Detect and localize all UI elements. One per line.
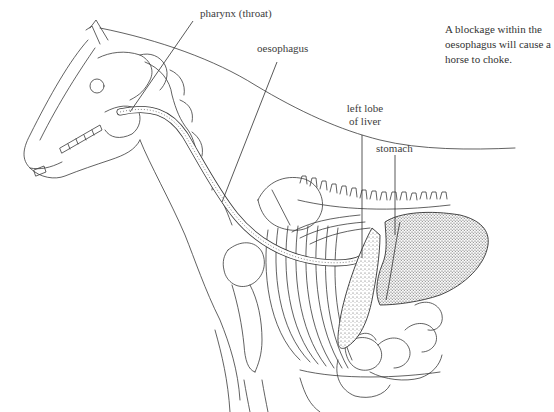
oesophagus-label: oesophagus xyxy=(257,42,308,55)
liver-label-line2: of liver xyxy=(345,115,385,128)
caption-line-1: A blockage within the xyxy=(445,22,554,37)
liver-label: left lobe of liver xyxy=(345,102,385,128)
horse-anatomy-diagram: pharynx (throat) oesophagus left lobe of… xyxy=(0,0,554,412)
caption-line-3: horse to choke. xyxy=(445,52,554,67)
caption-text: A blockage within the oesophagus will ca… xyxy=(445,22,554,67)
scapula xyxy=(258,177,323,230)
humerus xyxy=(223,243,264,287)
eye-socket xyxy=(90,79,104,93)
spinous-processes xyxy=(300,176,447,200)
stomach-label: stomach xyxy=(376,142,413,155)
leader-lines xyxy=(130,21,395,258)
pharynx-label: pharynx (throat) xyxy=(200,7,272,20)
neck-underline xyxy=(140,140,240,400)
teeth xyxy=(60,125,102,153)
oesophagus-leader xyxy=(222,62,277,202)
pharynx-leader xyxy=(130,21,193,112)
oesophagus-tube xyxy=(120,109,362,262)
liver-label-line1: left lobe xyxy=(345,102,385,115)
caption-line-2: oesophagus will cause a xyxy=(445,37,554,52)
ear-icon xyxy=(86,20,108,44)
liver-left-lobe xyxy=(338,228,380,348)
